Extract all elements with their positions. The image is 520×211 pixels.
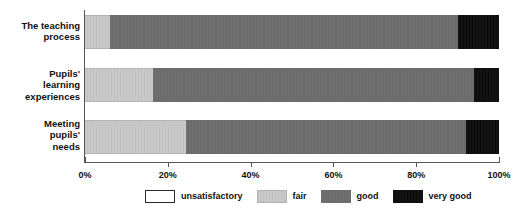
legend-item-unsatisfactory: unsatisfactory (145, 190, 243, 203)
category-label-line: Pupils' (49, 68, 80, 80)
category-label-line: process (44, 31, 80, 43)
category-label-line: The teaching (21, 20, 80, 32)
x-axis-tick-label: 40% (242, 170, 260, 180)
bar-segment-fair (85, 120, 186, 154)
legend-swatch-unsatisfactory (145, 190, 175, 203)
x-axis-tick (333, 162, 334, 167)
category-label-line: Meeting (44, 118, 80, 130)
legend-item-very-good: very good (393, 190, 472, 203)
category-label-line: pupils' (50, 129, 80, 141)
category-label-line: needs (53, 141, 80, 153)
x-axis-tick (168, 162, 169, 167)
legend-item-good: good (321, 190, 379, 203)
x-axis-tick-label: 20% (159, 170, 177, 180)
bar-segment-good (110, 15, 458, 49)
bar-segment-good (186, 120, 465, 154)
x-axis-tick-label: 80% (407, 170, 425, 180)
x-axis-tick (85, 157, 86, 163)
chart-legend: unsatisfactory fair good very good (145, 187, 486, 205)
x-axis-tick-label: 100% (487, 170, 510, 180)
legend-label: very good (429, 191, 472, 201)
stacked-bar-chart: The teaching process Pupils' learning ex… (0, 0, 520, 211)
legend-label: fair (293, 191, 307, 201)
legend-item-fair: fair (257, 190, 307, 203)
legend-label: unsatisfactory (181, 191, 243, 201)
bar-segment-fair (85, 15, 110, 49)
category-label-teaching-process: The teaching process (2, 14, 80, 48)
x-axis-tick-label: 60% (324, 170, 342, 180)
category-label-meeting-pupils-needs: Meeting pupils' needs (2, 115, 80, 155)
bar-row (85, 15, 499, 49)
bar-segment-very-good (458, 15, 499, 49)
x-axis-tick-label: 0% (78, 170, 91, 180)
bar-segment-very-good (474, 68, 499, 102)
bar-segment-very-good (466, 120, 499, 154)
x-axis-tick (499, 157, 500, 163)
category-label-line: experiences (25, 91, 80, 103)
x-axis-line (84, 162, 499, 163)
category-label-line: learning (43, 79, 80, 91)
category-label-pupils-learning-experiences: Pupils' learning experiences (2, 65, 80, 105)
x-axis-tick (416, 162, 417, 167)
legend-swatch-very-good (393, 190, 423, 203)
legend-swatch-fair (257, 190, 287, 203)
bar-segment-fair (85, 68, 153, 102)
legend-swatch-good (321, 190, 351, 203)
legend-label: good (357, 191, 379, 201)
bar-segment-good (153, 68, 474, 102)
bar-row (85, 120, 499, 154)
x-axis-tick (251, 162, 252, 167)
bar-row (85, 68, 499, 102)
